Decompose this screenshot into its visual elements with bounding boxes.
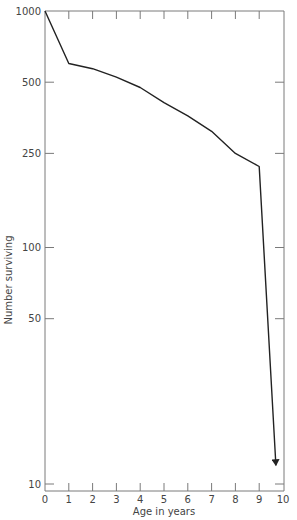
x-tick-label: 8 xyxy=(232,494,238,505)
plot-frame xyxy=(45,11,284,491)
y-axis-ticks: 10005002501005010 xyxy=(16,6,284,490)
y-tick-label: 50 xyxy=(28,313,41,324)
y-tick-label: 10 xyxy=(28,479,41,490)
y-tick-label: 100 xyxy=(22,242,41,253)
x-axis-title: Age in years xyxy=(133,506,195,517)
x-tick-label: 0 xyxy=(42,494,48,505)
x-tick-label: 9 xyxy=(256,494,262,505)
x-tick-label: 3 xyxy=(113,494,119,505)
survivorship-line xyxy=(45,11,276,465)
y-axis-title: Number surviving xyxy=(3,235,14,324)
data-series xyxy=(45,11,276,465)
survivorship-chart: 012345678910 10005002501005010 Age in ye… xyxy=(0,0,297,520)
x-tick-label: 1 xyxy=(66,494,72,505)
x-tick-label: 6 xyxy=(185,494,191,505)
y-tick-label: 250 xyxy=(22,148,41,159)
x-tick-label: 2 xyxy=(89,494,95,505)
y-tick-label: 500 xyxy=(22,77,41,88)
y-tick-label: 1000 xyxy=(16,6,41,17)
x-tick-label: 7 xyxy=(208,494,214,505)
x-tick-label: 5 xyxy=(161,494,167,505)
x-tick-label: 10 xyxy=(277,494,290,505)
x-axis-ticks: 012345678910 xyxy=(42,11,290,505)
x-tick-label: 4 xyxy=(137,494,143,505)
